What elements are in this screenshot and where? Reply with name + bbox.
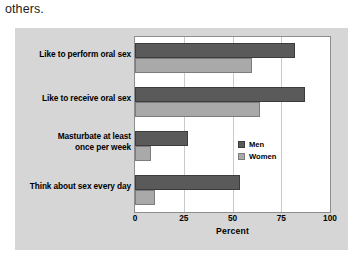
legend-label-women: Women: [249, 152, 276, 161]
bar-men-1: [135, 87, 305, 102]
x-axis-ticks: 0 25 50 75 100: [134, 213, 331, 225]
plot-area: Men Women: [134, 36, 331, 213]
x-tick-50: 50: [228, 213, 237, 223]
bar-women-3: [135, 190, 155, 205]
x-tick-100: 100: [323, 213, 337, 223]
page-text-fragment: others.: [5, 2, 44, 16]
chart-figure: Like to perform oral sex Like to receive…: [15, 28, 348, 250]
bar-men-2: [135, 131, 188, 146]
x-tick-25: 25: [179, 213, 188, 223]
legend-item-men: Men: [238, 139, 276, 150]
category-axis-labels: Like to perform oral sex Like to receive…: [15, 36, 133, 211]
legend-item-women: Women: [238, 151, 276, 162]
x-tick-0: 0: [133, 213, 138, 223]
legend-swatch-men-icon: [238, 141, 245, 148]
figure-page: others. Like to perform oral sex Like to…: [0, 0, 362, 268]
category-label-0: Like to perform oral sex: [15, 49, 131, 60]
chart-legend: Men Women: [238, 139, 276, 163]
bar-men-0: [135, 43, 295, 58]
gridline-75: [281, 37, 282, 212]
legend-label-men: Men: [249, 140, 264, 149]
category-label-2: Masturbate at least once per week: [53, 131, 131, 152]
bar-women-1: [135, 102, 260, 117]
x-axis-title: Percent: [134, 226, 331, 236]
x-tick-75: 75: [277, 213, 286, 223]
bar-women-0: [135, 58, 252, 73]
legend-swatch-women-icon: [238, 153, 245, 160]
bar-women-2: [135, 146, 151, 161]
bar-men-3: [135, 175, 240, 190]
category-label-1: Like to receive oral sex: [15, 93, 131, 104]
category-label-3: Think about sex every day: [15, 181, 131, 192]
